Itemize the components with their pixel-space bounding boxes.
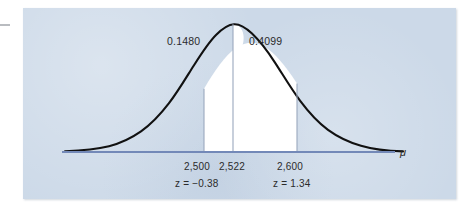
- x-tick-label-2500: 2,500: [184, 162, 210, 172]
- x-tick-label-2522: 2,522: [219, 162, 245, 172]
- x-tick-label-2600: 2,600: [277, 162, 303, 172]
- figure-panel: 0.1480 0.4099 2,500 2,522 2,600 z = −0.3…: [23, 8, 456, 199]
- mu-axis-label: μ: [400, 147, 406, 158]
- figure-screenshot: 0.1480 0.4099 2,500 2,522 2,600 z = −0.3…: [0, 0, 475, 213]
- page-edge-dash: [0, 24, 10, 26]
- z-label-right: z = 1.34: [273, 179, 310, 189]
- shaded-area-polygon: [204, 43, 297, 152]
- z-label-left: z = −0.38: [175, 179, 219, 189]
- area-label-left: 0.1480: [167, 36, 200, 47]
- area-label-right: 0.4099: [249, 36, 282, 47]
